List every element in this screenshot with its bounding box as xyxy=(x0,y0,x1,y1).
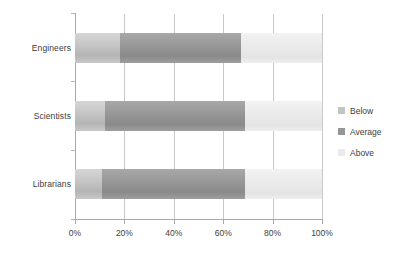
x-axis-tick xyxy=(124,220,125,224)
bar-segment-average xyxy=(105,101,246,131)
x-axis-tick-label-100: 100% xyxy=(302,228,342,238)
bar-chart: Engineers Scientists Librarians xyxy=(0,0,409,254)
x-axis-tick xyxy=(322,220,323,224)
x-axis-tick-label-40: 40% xyxy=(154,228,194,238)
bar-segment-below xyxy=(75,169,102,199)
x-axis-tick xyxy=(223,220,224,224)
x-axis-line xyxy=(75,219,323,220)
bar-segment-above xyxy=(241,33,323,63)
legend-label: Average xyxy=(350,127,382,137)
legend-item-above[interactable]: Above xyxy=(338,142,408,163)
legend-item-average[interactable]: Average xyxy=(338,121,408,142)
legend-swatch-icon xyxy=(338,149,345,156)
legend-swatch-icon xyxy=(338,128,345,135)
x-axis-tick-label-0: 0% xyxy=(55,228,95,238)
x-axis-tick-label-80: 80% xyxy=(253,228,293,238)
y-axis-label-scientists: Scientists xyxy=(3,111,71,121)
bar-row-librarians xyxy=(75,169,322,199)
legend-label: Above xyxy=(350,148,374,158)
x-axis-tick xyxy=(75,220,76,224)
y-axis-label-librarians: Librarians xyxy=(3,179,71,189)
bar-segment-average xyxy=(120,33,241,63)
chart-legend: Below Average Above xyxy=(338,100,408,163)
legend-label: Below xyxy=(350,106,373,116)
plot-area xyxy=(75,14,322,219)
bar-segment-above xyxy=(245,169,322,199)
x-axis-tick xyxy=(174,220,175,224)
x-axis-tick-label-20: 20% xyxy=(104,228,144,238)
bar-segment-below xyxy=(75,101,105,131)
legend-swatch-icon xyxy=(338,107,345,114)
y-axis-labels: Engineers Scientists Librarians xyxy=(0,0,71,254)
bar-segment-average xyxy=(102,169,245,199)
y-axis-label-engineers: Engineers xyxy=(3,43,71,53)
x-axis-tick xyxy=(273,220,274,224)
bar-segment-above xyxy=(245,101,322,131)
x-axis-tick-label-60: 60% xyxy=(203,228,243,238)
bar-segment-below xyxy=(75,33,120,63)
legend-item-below[interactable]: Below xyxy=(338,100,408,121)
bar-row-scientists xyxy=(75,101,322,131)
bar-row-engineers xyxy=(75,33,322,63)
